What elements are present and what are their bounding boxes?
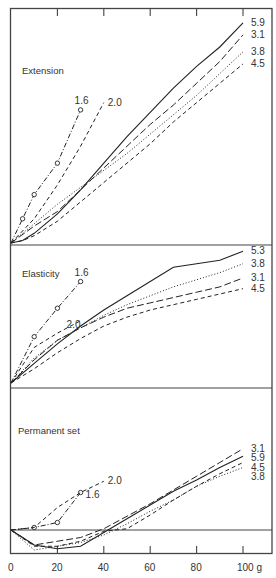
series-label: 5.3 [251, 245, 265, 256]
series-line-4.5 [11, 463, 243, 547]
series-label: 3.8 [251, 258, 265, 269]
series-line-1.6 [11, 493, 81, 531]
series-label: 1.6 [86, 489, 100, 500]
panel-title: Elasticity [22, 268, 60, 279]
data-marker [32, 335, 36, 339]
data-marker [55, 520, 59, 524]
series-line-3.1 [11, 278, 243, 383]
series-label: 2.0 [108, 97, 122, 108]
series-line-3.8 [11, 264, 243, 383]
series-label: 1.6 [75, 267, 89, 278]
series-line-5.9 [11, 456, 243, 549]
series-label: 3.1 [251, 29, 265, 40]
data-marker [32, 192, 36, 196]
data-marker [55, 161, 59, 165]
data-marker [20, 217, 24, 221]
x-tick-label: 80 [191, 562, 203, 573]
series-line-4.5 [11, 64, 243, 243]
series-line-4.5 [11, 289, 243, 383]
data-marker [78, 108, 82, 112]
panel-title: Permanent set [18, 425, 80, 436]
series-label: 5.9 [251, 17, 265, 28]
panel-title: Extension [22, 65, 64, 76]
x-tick-label: 0 [8, 562, 14, 573]
series-line-3.1 [11, 449, 243, 545]
series-label: 4.5 [251, 58, 265, 69]
series-label: 4.5 [251, 283, 265, 294]
x-tick-label: 60 [144, 562, 156, 573]
series-line-3.8 [11, 52, 243, 243]
x-axis-labels: 020406080100 g [8, 562, 262, 573]
series-label: 3.8 [251, 46, 265, 57]
series-label: 3.8 [251, 471, 265, 482]
series-line-1.6 [11, 282, 81, 383]
x-tick-label: 20 [51, 562, 63, 573]
x-axis-ticks [57, 8, 243, 553]
data-marker [78, 279, 82, 283]
plot-panels: Extension5.93.13.84.51.62.0Elasticity5.3… [11, 17, 265, 550]
panel-extension: Extension5.93.13.84.51.62.0 [11, 17, 265, 243]
panel-permanent-set: Permanent set3.15.94.53.81.62.0 [11, 425, 265, 550]
panel-elasticity: Elasticity5.33.83.14.51.62.0 [11, 245, 265, 383]
series-line-5.9 [11, 23, 243, 243]
x-tick-label: 40 [98, 562, 110, 573]
data-marker [55, 306, 59, 310]
x-tick-label: 100 g [237, 562, 262, 573]
stacked-line-chart: Extension5.93.13.84.51.62.0Elasticity5.3… [0, 0, 276, 578]
series-label: 1.6 [75, 95, 89, 106]
series-line-2.0 [11, 103, 104, 243]
chart-frame [11, 9, 273, 554]
series-label: 2.0 [108, 475, 122, 486]
series-label: 3.1 [251, 272, 265, 283]
series-label: 2.0 [67, 319, 81, 330]
